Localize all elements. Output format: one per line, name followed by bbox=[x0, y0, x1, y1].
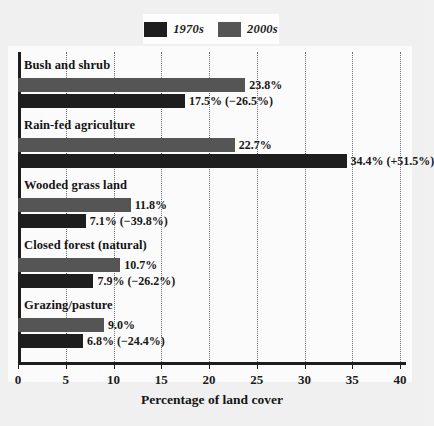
tick-10 bbox=[114, 362, 115, 369]
legend-label-1970s: 1970s bbox=[173, 22, 204, 37]
x-tick-label-40: 40 bbox=[394, 372, 407, 388]
category-label-rain-fed-agriculture: Rain-fed agriculture bbox=[24, 118, 135, 133]
x-tick-label-0: 0 bbox=[15, 372, 22, 388]
tick-5 bbox=[66, 362, 67, 369]
bar-value-1970s: 9.0% bbox=[108, 318, 135, 333]
legend-swatch-2000s bbox=[218, 22, 241, 37]
gridline-40 bbox=[400, 52, 402, 362]
gridline-30 bbox=[305, 52, 307, 362]
bar-value-2000s: 7.9% (−26.2%) bbox=[97, 274, 175, 289]
bar-row-2000s: 34.4% (+51.5%) bbox=[18, 154, 434, 168]
plot-area: 0 5 10 15 20 25 30 35 40 Bush and shrub … bbox=[8, 46, 412, 382]
bar-1970s bbox=[18, 78, 245, 92]
bar-2000s bbox=[18, 94, 185, 108]
bar-row-2000s: 7.1% (−39.8%) bbox=[18, 214, 168, 228]
bar-row-1970s: 22.7% bbox=[18, 138, 272, 152]
bar-value-2000s: 6.8% (−24.4%) bbox=[87, 334, 165, 349]
x-tick-label-25: 25 bbox=[250, 372, 263, 388]
bar-1970s bbox=[18, 318, 104, 332]
tick-30 bbox=[305, 362, 306, 369]
category-label-wooded-grass-land: Wooded grass land bbox=[24, 178, 127, 193]
bar-row-2000s: 7.9% (−26.2%) bbox=[18, 274, 175, 288]
x-tick-label-10: 10 bbox=[107, 372, 120, 388]
x-axis-line bbox=[18, 362, 406, 365]
tick-25 bbox=[257, 362, 258, 369]
bar-row-1970s: 10.7% bbox=[18, 258, 157, 272]
x-tick-label-30: 30 bbox=[298, 372, 311, 388]
bar-1970s bbox=[18, 138, 235, 152]
bar-row-1970s: 9.0% bbox=[18, 318, 135, 332]
tick-15 bbox=[161, 362, 162, 369]
bar-value-1970s: 22.7% bbox=[239, 138, 272, 153]
bar-value-2000s: 17.5% (−26.5%) bbox=[189, 94, 273, 109]
tick-40 bbox=[400, 362, 401, 369]
bar-value-2000s: 7.1% (−39.8%) bbox=[90, 214, 168, 229]
bar-value-1970s: 10.7% bbox=[124, 258, 157, 273]
bar-1970s bbox=[18, 198, 131, 212]
category-label-bush-and-shrub: Bush and shrub bbox=[24, 58, 110, 73]
bar-value-1970s: 11.8% bbox=[135, 198, 167, 213]
bar-value-2000s: 34.4% (+51.5%) bbox=[351, 154, 434, 169]
bar-1970s bbox=[18, 258, 120, 272]
x-tick-label-15: 15 bbox=[155, 372, 168, 388]
legend-item-2000s: 2000s bbox=[218, 22, 278, 37]
tick-0 bbox=[18, 362, 19, 369]
x-tick-label-20: 20 bbox=[203, 372, 216, 388]
x-axis-title: Percentage of land cover bbox=[0, 392, 424, 408]
tick-35 bbox=[352, 362, 353, 369]
legend-swatch-1970s bbox=[144, 22, 167, 37]
category-label-grazing-pasture: Grazing/pasture bbox=[24, 298, 113, 313]
chart-legend: 1970s 2000s bbox=[143, 14, 279, 44]
category-label-closed-forest-natural: Closed forest (natural) bbox=[24, 238, 147, 253]
bar-2000s bbox=[18, 214, 86, 228]
bar-row-1970s: 23.8% bbox=[18, 78, 282, 92]
bar-row-2000s: 17.5% (−26.5%) bbox=[18, 94, 273, 108]
gridline-35 bbox=[352, 52, 354, 362]
bar-row-2000s: 6.8% (−24.4%) bbox=[18, 334, 165, 348]
bar-2000s bbox=[18, 274, 93, 288]
x-tick-label-5: 5 bbox=[63, 372, 70, 388]
x-tick-label-35: 35 bbox=[346, 372, 359, 388]
bar-row-1970s: 11.8% bbox=[18, 198, 167, 212]
bar-2000s bbox=[18, 154, 347, 168]
bar-2000s bbox=[18, 334, 83, 348]
legend-label-2000s: 2000s bbox=[247, 22, 278, 37]
legend-item-1970s: 1970s bbox=[144, 22, 204, 37]
tick-20 bbox=[209, 362, 210, 369]
bar-value-1970s: 23.8% bbox=[249, 78, 282, 93]
